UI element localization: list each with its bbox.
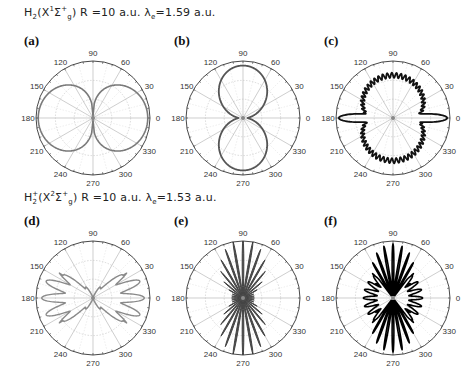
angle-tick-label: 90 bbox=[239, 229, 248, 238]
angle-tick-label: 330 bbox=[293, 147, 307, 156]
title-state: (X bbox=[37, 6, 49, 19]
angle-tick-label: 30 bbox=[445, 82, 454, 91]
angle-tick-label: 60 bbox=[271, 238, 280, 247]
angle-tick-label: 270 bbox=[386, 359, 400, 368]
angle-tick-label: 240 bbox=[204, 350, 218, 359]
polar-plot: 0306090120150180210240270300330 bbox=[318, 213, 468, 377]
angle-tick-label: 150 bbox=[330, 82, 344, 91]
angle-tick-label: 210 bbox=[180, 327, 194, 336]
angle-tick-label: 150 bbox=[30, 262, 44, 271]
angle-tick-label: 270 bbox=[86, 359, 100, 368]
angle-tick-label: 330 bbox=[143, 327, 157, 336]
angle-tick-label: 0 bbox=[156, 294, 161, 303]
angle-tick-label: 330 bbox=[293, 327, 307, 336]
angle-tick-label: 120 bbox=[204, 58, 218, 67]
angle-tick-label: 210 bbox=[30, 327, 44, 336]
angle-tick-label: 60 bbox=[421, 238, 430, 247]
title-sigma-sup: + bbox=[61, 5, 67, 13]
angle-tick-label: 270 bbox=[236, 359, 250, 368]
angle-tick-label: 180 bbox=[21, 294, 35, 303]
angle-tick-label: 30 bbox=[145, 82, 154, 91]
polar-panel-e: (e) 0306090120150180210240270300330 bbox=[168, 213, 318, 377]
angle-tick-label: 120 bbox=[354, 238, 368, 247]
angle-tick-label: 0 bbox=[156, 114, 161, 123]
polar-panel-c: (c) 0306090120150180210240270300330 bbox=[318, 33, 468, 203]
angle-tick-label: 150 bbox=[30, 82, 44, 91]
polar-panel-a: (a) 0306090120150180210240270300330 bbox=[18, 33, 168, 203]
angle-tick-label: 120 bbox=[54, 238, 68, 247]
angle-tick-label: 180 bbox=[321, 114, 335, 123]
angle-tick-label: 0 bbox=[306, 114, 311, 123]
angle-tick-label: 210 bbox=[330, 327, 344, 336]
angle-tick-label: 300 bbox=[119, 350, 133, 359]
polar-panel-b: (b) 0306090120150180210240270300330 bbox=[168, 33, 318, 203]
angle-tick-label: 270 bbox=[236, 179, 250, 188]
title-params: ) R =10 a.u. λ bbox=[72, 6, 151, 19]
row-title-h2: H2(X1Σ+g) R =10 a.u. λe=1.59 a.u. bbox=[24, 5, 216, 21]
angle-tick-label: 300 bbox=[419, 350, 433, 359]
angle-tick-label: 0 bbox=[456, 294, 461, 303]
angle-tick-label: 180 bbox=[321, 294, 335, 303]
angle-tick-label: 60 bbox=[121, 238, 130, 247]
angle-tick-label: 90 bbox=[89, 49, 98, 58]
angle-tick-label: 150 bbox=[180, 82, 194, 91]
angle-tick-label: 90 bbox=[389, 229, 398, 238]
angle-tick-label: 300 bbox=[419, 170, 433, 179]
angle-tick-label: 270 bbox=[386, 179, 400, 188]
angle-tick-label: 330 bbox=[443, 147, 457, 156]
angle-tick-label: 90 bbox=[389, 49, 398, 58]
angle-tick-label: 180 bbox=[21, 114, 35, 123]
angle-tick-label: 30 bbox=[295, 262, 304, 271]
angle-tick-label: 0 bbox=[456, 114, 461, 123]
angle-tick-label: 90 bbox=[89, 229, 98, 238]
angle-tick-label: 120 bbox=[354, 58, 368, 67]
angle-tick-label: 330 bbox=[443, 327, 457, 336]
polar-plot: 0306090120150180210240270300330 bbox=[18, 33, 168, 203]
angle-tick-label: 60 bbox=[121, 58, 130, 67]
angle-tick-label: 240 bbox=[54, 170, 68, 179]
angle-tick-label: 240 bbox=[354, 170, 368, 179]
angle-tick-label: 240 bbox=[54, 350, 68, 359]
angle-tick-label: 210 bbox=[30, 147, 44, 156]
angle-tick-label: 300 bbox=[269, 350, 283, 359]
angle-tick-label: 150 bbox=[180, 262, 194, 271]
angle-tick-label: 300 bbox=[119, 170, 133, 179]
angle-tick-label: 330 bbox=[143, 147, 157, 156]
angle-tick-label: 150 bbox=[330, 262, 344, 271]
angle-tick-label: 0 bbox=[306, 294, 311, 303]
angle-tick-label: 180 bbox=[171, 294, 185, 303]
angle-tick-label: 60 bbox=[271, 58, 280, 67]
angle-tick-label: 120 bbox=[204, 238, 218, 247]
angle-tick-label: 180 bbox=[171, 114, 185, 123]
angle-tick-label: 210 bbox=[330, 147, 344, 156]
polar-plot: 0306090120150180210240270300330 bbox=[168, 33, 318, 203]
polar-panel-d: (d) 0306090120150180210240270300330 bbox=[18, 213, 168, 377]
angle-tick-label: 270 bbox=[86, 179, 100, 188]
angle-tick-label: 30 bbox=[445, 262, 454, 271]
angle-tick-label: 240 bbox=[204, 170, 218, 179]
angle-tick-label: 30 bbox=[145, 262, 154, 271]
angle-tick-label: 30 bbox=[295, 82, 304, 91]
angle-tick-label: 60 bbox=[421, 58, 430, 67]
angle-tick-label: 90 bbox=[239, 49, 248, 58]
polar-plot: 0306090120150180210240270300330 bbox=[318, 33, 468, 203]
title-lambda-value: =1.59 a.u. bbox=[156, 6, 216, 19]
angle-tick-label: 120 bbox=[54, 58, 68, 67]
angle-tick-label: 300 bbox=[269, 170, 283, 179]
polar-plot: 0306090120150180210240270300330 bbox=[18, 213, 168, 377]
angle-tick-label: 240 bbox=[354, 350, 368, 359]
angle-tick-label: 210 bbox=[180, 147, 194, 156]
polar-panel-f: (f) 0306090120150180210240270300330 bbox=[318, 213, 468, 377]
polar-plot: 0306090120150180210240270300330 bbox=[168, 213, 318, 377]
